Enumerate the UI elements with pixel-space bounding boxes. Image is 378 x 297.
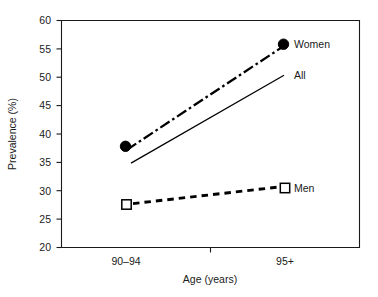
series-all <box>131 75 284 163</box>
y-tick-label-50: 50 <box>39 71 51 83</box>
y-tick-label-25: 25 <box>39 213 51 225</box>
x-axis-tick-labels: 90–94 95+ <box>111 255 294 267</box>
x-tick-label-90-94: 90–94 <box>111 255 140 267</box>
chart-figure: 20 25 30 35 40 45 50 55 60 90–94 95+ Age… <box>0 0 378 297</box>
series-labels: Women All Men <box>294 38 330 194</box>
y-tick-label-20: 20 <box>39 241 51 253</box>
data-point-women-90-94 <box>120 141 130 151</box>
x-tick-label-95-plus: 95+ <box>276 255 294 267</box>
series-men <box>122 183 290 209</box>
data-point-men-90-94 <box>122 200 131 209</box>
series-label-men: Men <box>294 182 315 194</box>
y-tick-label-30: 30 <box>39 185 51 197</box>
prevalence-by-age-line-chart: 20 25 30 35 40 45 50 55 60 90–94 95+ Age… <box>0 0 378 297</box>
series-label-women: Women <box>294 38 330 50</box>
y-tick-label-45: 45 <box>39 99 51 111</box>
y-tick-label-35: 35 <box>39 156 51 168</box>
y-tick-label-55: 55 <box>39 43 51 55</box>
series-label-all: All <box>294 69 306 81</box>
y-axis-title: Prevalence (%) <box>6 98 18 170</box>
data-point-men-95-plus <box>280 183 289 192</box>
data-point-women-95-plus <box>278 39 288 49</box>
y-tick-label-40: 40 <box>39 128 51 140</box>
y-axis-ticks <box>57 21 62 248</box>
series-women <box>120 39 288 152</box>
x-axis-title: Age (years) <box>183 273 237 285</box>
y-axis-tick-labels: 20 25 30 35 40 45 50 55 60 <box>39 14 51 253</box>
y-tick-label-60: 60 <box>39 14 51 26</box>
plot-frame <box>62 21 360 248</box>
